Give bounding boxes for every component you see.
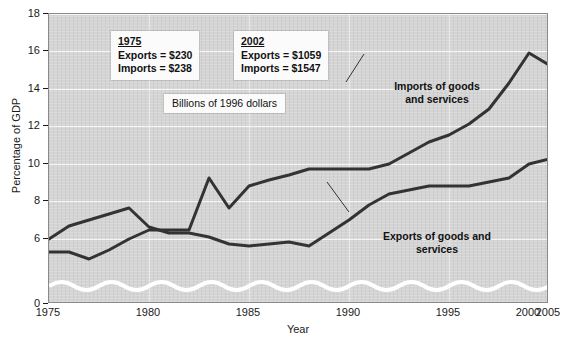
- callout-2002-imports: Imports = $1547: [241, 62, 321, 75]
- callout-2002-year: 2002: [241, 35, 321, 48]
- callout-1975-exports: Exports = $230: [118, 49, 192, 62]
- y-tick-label: 6: [6, 233, 40, 244]
- exports-series-label: Exports of goods and services: [379, 230, 495, 255]
- axis-break-wave: [49, 282, 548, 290]
- callout-1975-year: 1975: [118, 35, 192, 48]
- callout-1975: 1975 Exports = $230 Imports = $238: [111, 31, 199, 80]
- x-tick-label: 1985: [218, 307, 278, 318]
- x-tick-label: 1990: [318, 307, 378, 318]
- x-tick-label: 1980: [118, 307, 178, 318]
- x-tick-label: 2005: [518, 307, 578, 318]
- x-tick-label: 1995: [418, 307, 478, 318]
- chart-figure: 18 16 14 12 10 8 6 0 Percentage of GDP: [0, 0, 580, 338]
- callout-2002: 2002 Exports = $1059 Imports = $1547: [234, 31, 328, 80]
- y-tick-label: 16: [6, 45, 40, 56]
- y-tick-mark: [43, 303, 48, 304]
- exports-label-leader-line: [327, 182, 349, 212]
- imports-label-leader-line: [346, 54, 364, 82]
- plot-area: 1975 Exports = $230 Imports = $238 2002 …: [48, 13, 548, 303]
- imports-series-label: Imports of goods and services: [385, 80, 489, 105]
- units-note: Billions of 1996 dollars: [164, 94, 285, 113]
- x-axis-title: Year: [268, 324, 328, 335]
- y-axis-title: Percentage of GDP: [11, 86, 22, 206]
- callout-2002-exports: Exports = $1059: [241, 49, 321, 62]
- y-tick-label: 18: [6, 8, 40, 19]
- x-tick-label: 1975: [18, 307, 78, 318]
- callout-1975-imports: Imports = $238: [118, 62, 192, 75]
